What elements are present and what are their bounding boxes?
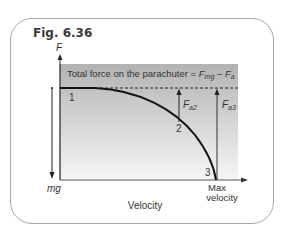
point-2-label: 2: [176, 123, 182, 134]
point-3-label: 3: [205, 167, 211, 178]
point-1-label: 1: [69, 92, 75, 103]
y-axis-label: F: [56, 42, 63, 53]
weight-label: mg: [47, 183, 61, 194]
x-axis-label: Velocity: [128, 200, 162, 211]
weight-arrowhead-icon: [50, 172, 55, 179]
max-velocity-label-line2: velocity: [206, 192, 238, 203]
force-velocity-diagram: F Total force on the parachuter = Fmg – …: [0, 0, 282, 227]
x-axis-arrowhead-icon: [241, 178, 248, 183]
y-axis-arrowhead-icon: [58, 54, 63, 60]
